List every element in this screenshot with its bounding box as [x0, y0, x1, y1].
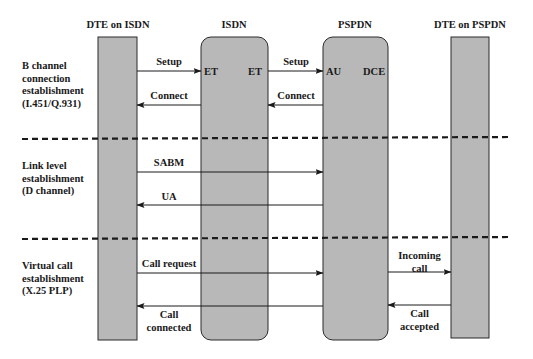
msg-text: Connect [266, 90, 326, 103]
msg-call-request: Call request [135, 258, 203, 271]
msg-setup-1: Setup [139, 56, 199, 69]
msg-connect-2: Connect [266, 90, 326, 103]
port-isdn-right: ET [248, 66, 262, 79]
header-dte-isdn: DTE on ISDN [78, 19, 158, 30]
phase-separator-2 [22, 237, 512, 239]
phase-label-virtual-call: Virtual call establishment (X.25 PLP) [22, 260, 84, 298]
msg-text: connected [135, 322, 203, 335]
msg-text: Call request [135, 258, 203, 271]
msg-incoming-call: Incoming call [388, 250, 451, 275]
msg-call-connected: Call connected [135, 309, 203, 334]
phase-separator-1 [22, 137, 512, 139]
msg-setup-2: Setup [266, 56, 326, 69]
port-isdn-left: ET [204, 66, 218, 79]
msg-sabm: SABM [139, 157, 199, 170]
header-pspdn: PSPDN [325, 19, 385, 30]
phase-line: establishment [22, 85, 84, 98]
pspdn-box [323, 37, 388, 340]
msg-ua: UA [139, 191, 199, 204]
phase-line: connection [22, 73, 84, 86]
phase-line: (I.451/Q.931) [22, 98, 84, 111]
msg-text: Setup [266, 56, 326, 69]
phase-line: establishment [22, 273, 84, 286]
dte-pspdn-box [451, 37, 489, 338]
port-pspdn-left: AU [326, 66, 341, 79]
msg-text: Call [388, 308, 451, 321]
msg-connect-1: Connect [139, 90, 199, 103]
phase-line: B channel [22, 60, 84, 73]
port-pspdn-right: DCE [363, 66, 385, 79]
msg-text: SABM [139, 157, 199, 170]
phase-label-link-level: Link level establishment (D channel) [22, 160, 84, 198]
phase-line: establishment [22, 173, 84, 186]
msg-call-accepted: Call accepted [388, 308, 451, 333]
msg-text: Setup [139, 56, 199, 69]
phase-line: (X.25 PLP) [22, 285, 84, 298]
msg-text: Incoming [388, 250, 451, 263]
msg-text: call [388, 263, 451, 276]
isdn-box [201, 37, 268, 340]
phase-label-b-channel: B channel connection establishment (I.45… [22, 60, 84, 110]
phase-line: Virtual call [22, 260, 84, 273]
msg-text: UA [139, 191, 199, 204]
phase-line: Link level [22, 160, 84, 173]
phase-line: (D channel) [22, 185, 84, 198]
header-isdn: ISDN [204, 19, 264, 30]
msg-text: accepted [388, 321, 451, 334]
header-dte-pspdn: DTE on PSPDN [425, 19, 515, 30]
dte-isdn-box [98, 37, 137, 340]
sequence-diagram: DTE on ISDN ISDN PSPDN DTE on PSPDN ET E… [0, 0, 533, 359]
msg-text: Call [135, 309, 203, 322]
msg-text: Connect [139, 90, 199, 103]
